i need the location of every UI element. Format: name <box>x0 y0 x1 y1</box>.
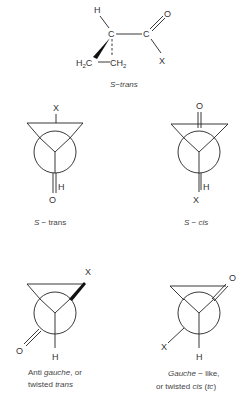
atom-x: X <box>159 56 165 66</box>
sub-h: H <box>196 352 203 362</box>
caption-line-1: Anti gauche, or <box>28 368 82 377</box>
sub-x: X <box>193 195 199 205</box>
atom-o: O <box>164 9 171 19</box>
label-s-trans-top: S−trans <box>110 80 138 89</box>
atom-h2c: H2C <box>76 58 93 69</box>
front-bonds <box>40 138 70 152</box>
sub-o: O <box>196 101 203 111</box>
sub-h: H <box>52 352 59 362</box>
conformation-diagram: H C C O X H2C CH2 S−trans X H O S − tran… <box>0 0 246 395</box>
sub-o: O <box>229 273 236 283</box>
front-bonds <box>40 299 70 313</box>
sub-h: H <box>203 182 210 192</box>
bond-h-c <box>100 16 109 28</box>
newman-s-trans: X H O S − trans <box>27 103 83 227</box>
newman-anti-gauche: X O H Anti gauche, or twisted trans <box>16 267 91 389</box>
newman-s-cis: O H X S − cis <box>171 101 228 227</box>
bond-co-a <box>24 329 39 344</box>
bond-x <box>168 328 184 343</box>
bond-c-x <box>151 39 161 53</box>
label-s-trans: S − trans <box>34 218 66 227</box>
cyclopropyl-carbonyl-structure: H C C O X H2C CH2 S−trans <box>76 5 171 89</box>
label-s-cis: S − cis <box>184 218 208 227</box>
front-bonds <box>184 138 214 152</box>
wedge-bond <box>93 38 110 59</box>
atom-h: H <box>94 5 101 15</box>
caption-line-2: or twisted cis (tc) <box>156 382 216 391</box>
sub-h: H <box>58 182 65 192</box>
sub-o: O <box>49 195 56 205</box>
atom-c1: C <box>108 29 115 39</box>
caption-line-2: twisted trans <box>28 380 73 389</box>
sub-x: X <box>53 103 59 113</box>
sub-x: X <box>85 267 91 277</box>
cyclopropyl-triangle <box>27 123 83 138</box>
sub-x: X <box>161 342 167 352</box>
atom-c2: C <box>143 29 150 39</box>
newman-gauche-like: O X H Gauche − like, or twisted cis (tc) <box>156 273 236 391</box>
atom-ch2: CH2 <box>110 58 127 69</box>
wedge-bond-x <box>69 282 86 301</box>
bond-co-b <box>26 331 41 346</box>
bond-co-b <box>214 286 228 301</box>
front-bonds <box>184 299 214 313</box>
sub-o: O <box>16 346 23 356</box>
caption-line-1: Gauche − like, <box>168 369 219 378</box>
